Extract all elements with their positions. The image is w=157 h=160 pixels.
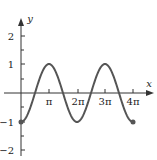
- start-point: [19, 120, 24, 125]
- y-tick-1: 1: [8, 59, 14, 70]
- x-axis-label: x: [146, 78, 152, 89]
- x-tick-4pi: 4π: [127, 96, 140, 107]
- end-point: [131, 120, 136, 125]
- chart: π 2π 3π 4π 2 1 −1 −2 x y: [0, 0, 157, 160]
- y-axis-label: y: [26, 13, 33, 24]
- y-tick-neg2: −2: [0, 145, 14, 156]
- x-axis-arrow-icon: [146, 90, 154, 96]
- y-tick-2: 2: [8, 31, 14, 42]
- y-axis-arrow-icon: [18, 18, 24, 26]
- x-tick-3pi: 3π: [99, 96, 112, 107]
- x-tick-2pi: 2π: [72, 96, 85, 107]
- y-tick-neg1: −1: [0, 117, 14, 128]
- x-tick-pi: π: [46, 96, 53, 107]
